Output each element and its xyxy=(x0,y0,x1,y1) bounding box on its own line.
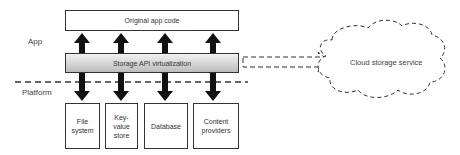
cloud-storage-label: Cloud storage service xyxy=(350,58,430,67)
storage-api-virtualization-bar: Storage API virtualization xyxy=(65,53,239,73)
down-arrows xyxy=(74,73,221,101)
content-providers-box: Content providers xyxy=(193,103,239,149)
file-system-box: File system xyxy=(65,103,100,149)
platform-layer-label: Platform xyxy=(22,88,52,97)
database-box: Database xyxy=(144,103,188,149)
app-layer-label: App xyxy=(28,37,42,46)
up-arrows xyxy=(74,33,221,53)
key-value-store-box: Key-value store xyxy=(105,103,138,149)
original-app-code-box: Original app code xyxy=(65,10,239,31)
cloud-arrow xyxy=(243,52,330,72)
